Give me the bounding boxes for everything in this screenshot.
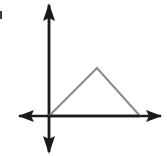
coordinate-plane-figure — [0, 0, 167, 156]
figure-root: Triangle graphed on coordinate axes — [0, 0, 167, 156]
edge-speck-artifact — [0, 11, 2, 19]
figure-background — [0, 0, 167, 156]
